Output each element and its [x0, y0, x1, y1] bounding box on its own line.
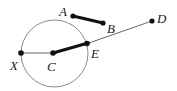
point-label-e: E — [91, 47, 99, 60]
point-dot-x — [18, 50, 24, 56]
point-label-x: X — [10, 59, 18, 72]
geometry-canvas — [0, 0, 177, 91]
point-label-c: C — [47, 60, 56, 73]
point-dot-a — [70, 13, 75, 18]
point-dot-d — [149, 18, 154, 23]
point-label-d: D — [157, 12, 166, 25]
segment-ed — [86, 21, 152, 44]
segment-ce — [53, 43, 88, 53]
point-dot-e — [84, 41, 90, 47]
point-dot-b — [100, 20, 105, 25]
point-label-a: A — [59, 5, 67, 18]
segment-ab — [73, 16, 103, 23]
geometry-figure: A B C D E X — [0, 0, 177, 91]
point-dot-c — [50, 50, 56, 56]
point-label-b: B — [107, 22, 115, 35]
